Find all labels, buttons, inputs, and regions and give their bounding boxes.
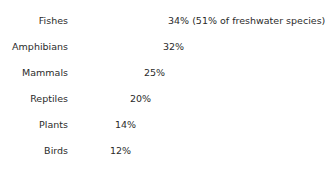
bar-row: Plants 14% (0, 119, 325, 131)
bar-row: Mammals 25% (0, 67, 325, 79)
category-label-mammals: Mammals (0, 65, 68, 81)
category-label-fishes: Fishes (0, 13, 68, 29)
bar-track-plants (71, 119, 110, 131)
bar-track-fishes (71, 15, 163, 27)
category-label-reptiles: Reptiles (0, 91, 68, 107)
category-label-plants: Plants (0, 117, 68, 133)
category-label-amphibians: Amphibians (0, 39, 68, 55)
bar-track-birds (71, 145, 105, 157)
category-label-birds: Birds (0, 143, 68, 159)
bar-row: Fishes 34% (51% of freshwater species) (0, 15, 325, 27)
value-label-reptiles: 20% (130, 91, 151, 107)
bar-row: Birds 12% (0, 145, 325, 157)
value-label-birds: 12% (110, 143, 131, 159)
bar-row: Reptiles 20% (0, 93, 325, 105)
value-label-plants: 14% (115, 117, 136, 133)
bar-track-reptiles (71, 93, 125, 105)
bar-row: Amphibians 32% (0, 41, 325, 53)
value-label-amphibians: 32% (163, 39, 184, 55)
value-label-mammals: 25% (144, 65, 165, 81)
horizontal-bar-chart: Fishes 34% (51% of freshwater species) A… (0, 0, 325, 175)
value-label-fishes: 34% (51% of freshwater species) (168, 13, 325, 29)
bar-track-mammals (71, 67, 139, 79)
bar-track-amphibians (71, 41, 158, 53)
